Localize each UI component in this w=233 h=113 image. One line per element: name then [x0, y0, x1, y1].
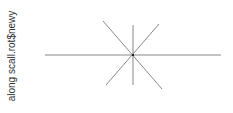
center-point [132, 54, 134, 56]
star-plot [0, 0, 233, 113]
